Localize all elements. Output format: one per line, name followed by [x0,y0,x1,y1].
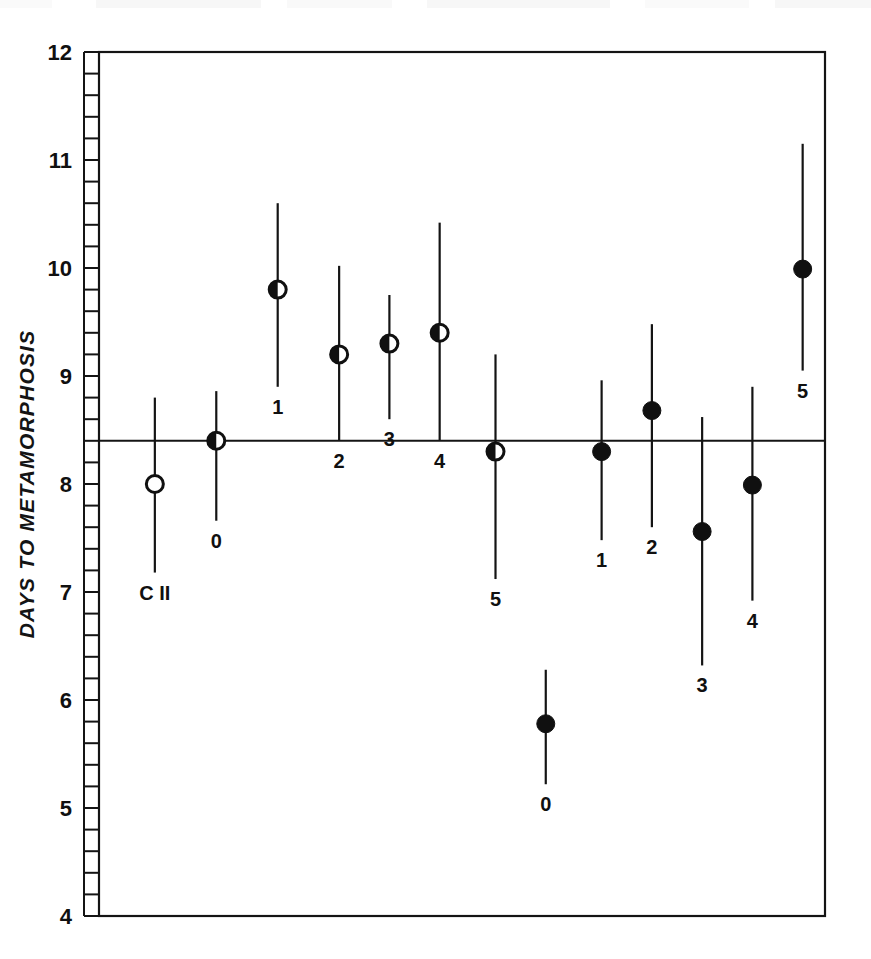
y-axis-ticks [84,52,99,916]
y-tick-label: 7 [60,580,72,605]
data-point-group: 3 [693,417,711,696]
marker-filled-circle [693,523,711,541]
data-point-group: 1 [269,203,287,418]
data-point-group: 3 [380,295,398,450]
y-tick-label: 10 [48,256,72,281]
marker-filled-circle [794,260,812,278]
data-point-group: 4 [743,387,761,632]
data-point-label: 5 [490,588,501,610]
data-point-label: 5 [797,380,808,402]
data-point-group: 4 [431,223,449,472]
y-tick-label: 8 [60,472,72,497]
data-point-label: C II [139,582,170,604]
data-point-group: 0 [207,391,225,552]
marker-filled-circle [593,443,611,461]
data-point-label: 4 [434,450,446,472]
data-point-group: 5 [487,354,505,610]
y-tick-label: 5 [60,796,72,821]
data-point-label: 0 [540,793,551,815]
y-axis-tick-labels: 456789101112 [48,40,73,929]
data-point-group: 5 [794,144,812,402]
y-tick-label: 11 [49,148,72,173]
y-tick-label: 12 [48,40,72,65]
data-point-group: 0 [537,670,555,815]
data-series: 012345 [537,144,812,815]
y-tick-label: 6 [60,688,72,713]
plot-border [99,52,825,916]
data-point-label: 0 [211,530,222,552]
data-point-label: 3 [384,428,395,450]
y-tick-label: 4 [60,904,73,929]
data-point-label: 2 [646,536,657,558]
data-point-label: 1 [272,396,283,418]
marker-filled-circle [537,715,555,733]
marker-filled-circle [743,476,761,494]
y-tick-label: 9 [60,364,72,389]
data-point-label: 2 [334,450,345,472]
marker-filled-circle [643,402,661,420]
marker-open-circle [146,476,163,493]
figure-container: 456789101112 DAYS TO METAMORPHOSIS C II0… [0,0,871,959]
y-axis-title: DAYS TO METAMORPHOSIS [15,330,38,639]
data-point-label: 1 [596,549,607,571]
data-point-group: C II [139,398,170,604]
data-point-group: 1 [593,380,611,571]
data-points-layer: C II012345012345 [139,144,811,815]
chart-svg: 456789101112 DAYS TO METAMORPHOSIS C II0… [0,0,871,959]
data-series: C II [139,398,170,604]
plot-frame [99,52,825,916]
data-point-label: 4 [747,610,759,632]
data-series: 012345 [207,203,504,610]
data-point-label: 3 [697,674,708,696]
